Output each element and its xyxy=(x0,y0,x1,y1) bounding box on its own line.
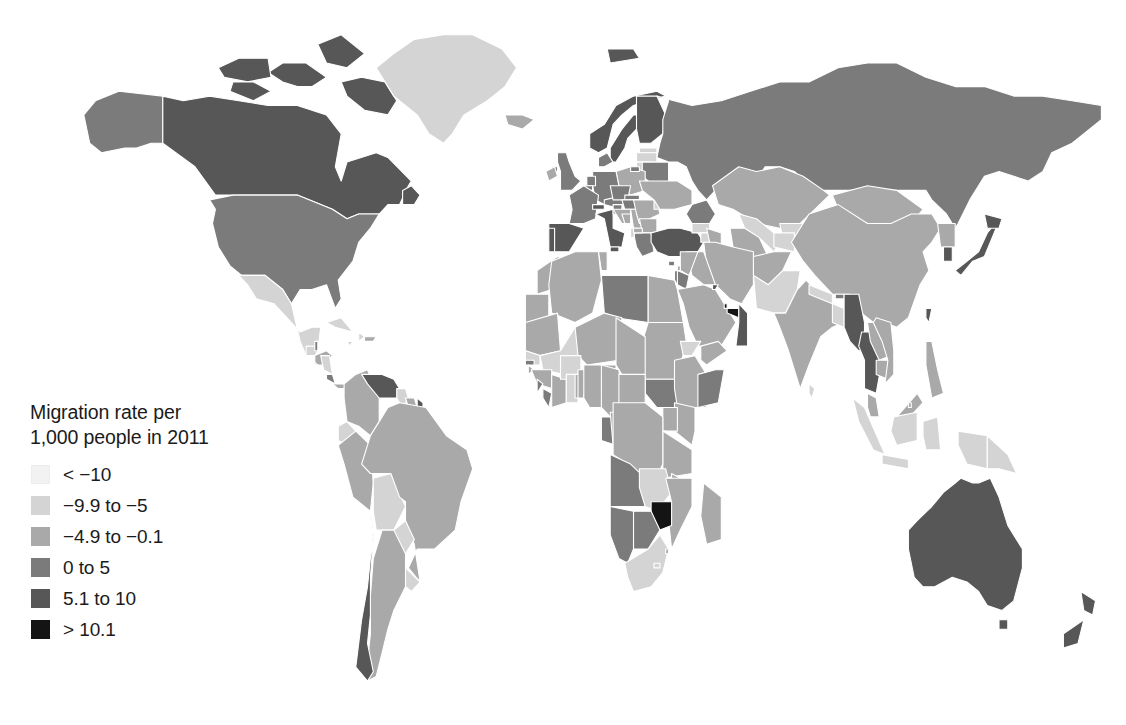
legend-label: < −10 xyxy=(63,464,111,486)
map-region xyxy=(593,205,605,210)
legend-items: < −10−9.9 to −5−4.9 to −0.10 to 55.1 to … xyxy=(30,459,260,645)
map-region xyxy=(639,148,657,153)
legend-label: −4.9 to −0.1 xyxy=(63,526,163,548)
map-region xyxy=(654,563,660,568)
legend-swatch xyxy=(31,465,50,484)
legend-label: 5.1 to 10 xyxy=(63,588,136,610)
legend-swatch xyxy=(31,496,50,515)
map-region xyxy=(663,408,678,432)
map-region xyxy=(923,417,941,450)
map-region xyxy=(549,228,555,252)
legend-swatch xyxy=(31,527,50,546)
map-region xyxy=(637,153,657,162)
legend-title: Migration rate per 1,000 people in 2011 xyxy=(30,400,260,450)
legend-row: 0 to 5 xyxy=(30,552,260,583)
map-region xyxy=(944,247,953,261)
map-region xyxy=(669,261,675,266)
map-region xyxy=(610,247,619,252)
map-region xyxy=(84,91,163,152)
legend-label: 0 to 5 xyxy=(63,557,110,579)
map-region xyxy=(677,266,680,271)
map-region xyxy=(999,620,1008,629)
legend-label: −9.9 to −5 xyxy=(63,495,148,517)
map-region xyxy=(587,176,596,185)
map-region xyxy=(666,549,669,554)
map-region xyxy=(631,167,640,172)
map-region xyxy=(835,294,844,299)
legend-label: > 10.1 xyxy=(63,619,116,641)
map-region xyxy=(724,304,727,309)
map-region xyxy=(525,360,534,365)
map-legend: Migration rate per 1,000 people in 2011 … xyxy=(30,400,260,645)
legend-row: −9.9 to −5 xyxy=(30,490,260,521)
map-region xyxy=(938,224,956,248)
map-region xyxy=(625,195,640,200)
legend-swatch xyxy=(31,589,50,608)
legend-swatch xyxy=(31,620,50,639)
map-region xyxy=(634,228,643,233)
migration-rate-world-map-figure: Migration rate per 1,000 people in 2011 … xyxy=(0,0,1126,725)
legend-row: < −10 xyxy=(30,459,260,490)
legend-row: > 10.1 xyxy=(30,614,260,645)
map-region xyxy=(908,403,911,408)
legend-row: 5.1 to 10 xyxy=(30,583,260,614)
map-region xyxy=(315,341,318,350)
legend-row: −4.9 to −0.1 xyxy=(30,521,260,552)
map-region xyxy=(832,304,844,328)
legend-swatch xyxy=(31,558,50,577)
map-region xyxy=(891,412,917,445)
